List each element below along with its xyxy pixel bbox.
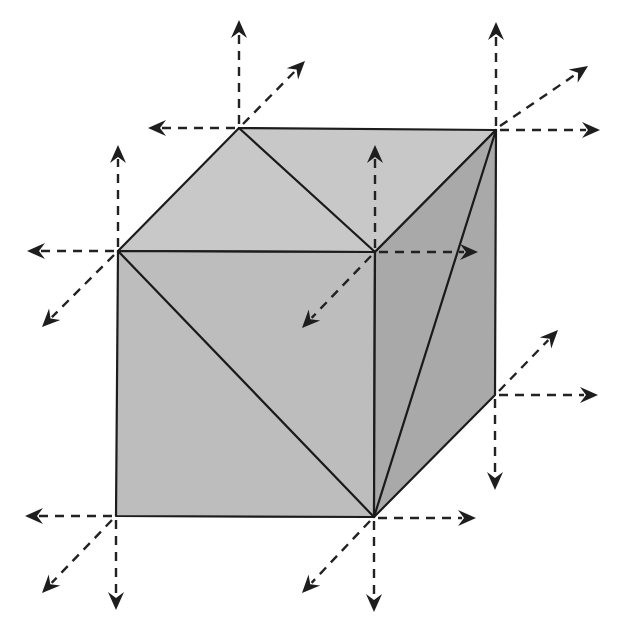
dashed-axis-line	[312, 521, 370, 583]
dashed-axis-line	[500, 74, 576, 126]
direction-arrows	[25, 20, 600, 612]
arrow-c-left	[27, 243, 114, 259]
arrowhead-icon	[487, 472, 503, 490]
arrowhead-icon	[42, 309, 60, 327]
arrowhead-icon	[366, 594, 382, 612]
arrowhead-icon	[108, 592, 124, 610]
dashed-axis-line	[499, 340, 548, 391]
arrow-g-diag	[499, 330, 558, 391]
arrow-b-diag	[500, 66, 588, 126]
arrow-f-down	[366, 521, 382, 612]
arrow-e-left	[25, 508, 112, 524]
arrow-a-diag	[243, 61, 305, 124]
arrowhead-icon	[302, 574, 320, 593]
arrow-a-up	[231, 20, 247, 124]
arrowhead-icon	[42, 574, 60, 593]
arrow-c-up	[110, 145, 126, 247]
arrow-e-down	[108, 520, 124, 610]
arrow-f-diag	[302, 521, 370, 593]
dashed-axis-line	[52, 255, 114, 317]
arrowhead-icon	[569, 66, 588, 83]
dashed-axis-line	[243, 71, 295, 124]
arrow-c-diag	[42, 255, 114, 327]
arrow-g-down	[487, 399, 503, 490]
arrow-e-diag	[42, 520, 112, 593]
cube-diagram	[0, 0, 625, 635]
dashed-axis-line	[52, 520, 112, 583]
arrowhead-icon	[540, 330, 558, 349]
arrow-b-right	[500, 122, 600, 138]
arrow-f-right	[378, 510, 476, 526]
arrow-b-up	[488, 22, 504, 126]
arrow-g-right	[499, 387, 598, 403]
arrow-a-left	[148, 120, 235, 136]
